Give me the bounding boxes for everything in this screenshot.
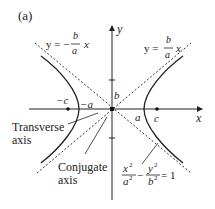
focus-left-point: [66, 107, 70, 111]
svg-text:2: 2: [129, 174, 133, 182]
svg-text:2: 2: [154, 174, 158, 182]
panel-label: (a): [18, 8, 32, 23]
svg-text:2: 2: [154, 161, 158, 169]
svg-text:b: b: [73, 30, 78, 41]
y-axis-label: y: [116, 22, 123, 36]
svg-text:−: −: [137, 169, 143, 181]
svg-text:= 1: = 1: [161, 169, 175, 181]
svg-text:a: a: [72, 45, 77, 56]
hyperbola-equation: x 2 a 2 − y 2 b 2 = 1: [122, 161, 175, 187]
transverse-axis-label-line2: axis: [12, 133, 32, 147]
svg-text:y = −: y = −: [46, 38, 69, 50]
svg-text:2: 2: [129, 161, 133, 169]
transverse-axis-label-line1: Transverse: [12, 120, 64, 134]
origin-point: [110, 107, 114, 111]
svg-text:a: a: [165, 49, 170, 60]
svg-text:x: x: [83, 38, 89, 50]
conjugate-axis-label-line2: axis: [58, 173, 78, 187]
svg-text:y: y: [147, 162, 153, 174]
hyperbola-diagram: (a) y x y = − b a x y = b a x −c −a b a …: [0, 0, 215, 209]
svg-text:y =: y =: [144, 42, 158, 54]
svg-text:x: x: [175, 42, 181, 54]
label-neg-a: −a: [80, 98, 93, 110]
label-c: c: [154, 112, 159, 124]
focus-right-point: [155, 107, 159, 111]
asymptote-negative-label: y = − b a x: [46, 30, 89, 56]
transverse-leader-line: [68, 113, 98, 124]
svg-text:b: b: [166, 34, 171, 45]
svg-text:x: x: [122, 162, 128, 174]
x-axis-label: x: [195, 111, 202, 125]
label-a: a: [135, 111, 141, 123]
conjugate-axis-label-line1: Conjugate: [58, 160, 107, 174]
label-neg-c: −c: [56, 94, 68, 106]
label-b: b: [114, 89, 120, 101]
